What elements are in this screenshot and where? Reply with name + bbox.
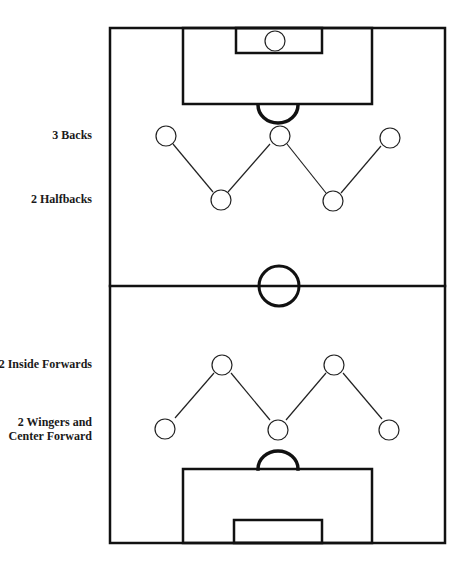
bottom-goal-area [234, 520, 322, 543]
player-goalkeeper [265, 31, 285, 51]
connector-line [173, 144, 213, 192]
bottom-penalty-arc [258, 451, 298, 469]
connector-line [286, 373, 326, 420]
player-inside-forward-left [212, 355, 232, 375]
player-winger-left [155, 419, 175, 439]
soccer-field-diagram [0, 0, 469, 562]
bottom-penalty-box [183, 469, 372, 543]
player-back-center [270, 126, 290, 146]
connector-line [343, 373, 382, 419]
player-back-left [156, 126, 176, 146]
player-winger-right [379, 420, 399, 440]
connector-line [341, 146, 381, 193]
connector-line [175, 373, 214, 418]
player-inside-forward-right [324, 355, 344, 375]
top-penalty-arc [258, 105, 298, 123]
player-halfback-right [323, 191, 343, 211]
player-halfback-left [211, 190, 231, 210]
top-penalty-box [183, 28, 372, 104]
player-center-forward [268, 420, 288, 440]
connector-line [228, 144, 270, 192]
connector-line [231, 373, 270, 420]
player-back-right [380, 128, 400, 148]
connector-line [287, 144, 326, 193]
